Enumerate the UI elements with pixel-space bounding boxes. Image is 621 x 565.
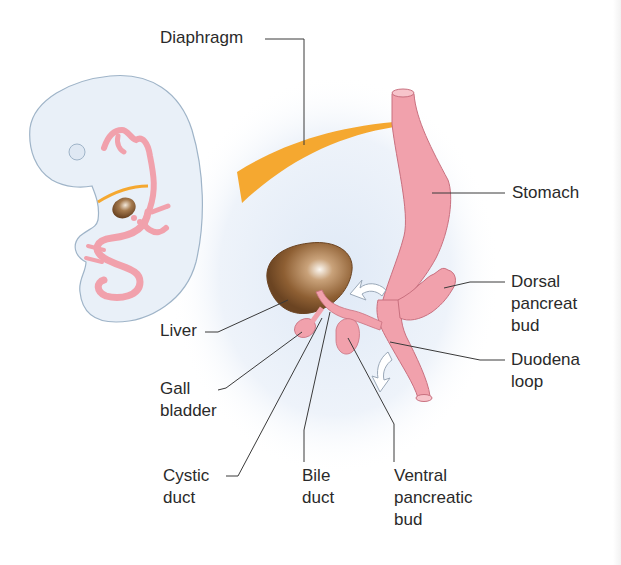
label-bile-duct: Bile duct xyxy=(302,465,334,509)
esophagus-opening xyxy=(392,89,414,97)
duodenum-opening xyxy=(416,395,432,402)
embryo-body xyxy=(30,75,203,322)
label-duodenal-loop: Duodena loop xyxy=(511,349,580,393)
label-diaphragm: Diaphragm xyxy=(160,27,243,49)
label-gall-bladder: Gall bladder xyxy=(160,378,217,422)
embryo-eye xyxy=(69,144,85,160)
label-ventral-pancreatic-bud: Ventral pancreatic bud xyxy=(394,465,472,531)
label-stomach: Stomach xyxy=(512,182,579,204)
label-dorsal-pancreatic-bud: Dorsal pancreat bud xyxy=(511,271,577,337)
page-edge-shadow xyxy=(613,0,621,565)
embryo-illustration xyxy=(30,75,203,322)
label-cystic-duct: Cystic duct xyxy=(163,465,209,509)
label-liver: Liver xyxy=(160,320,197,342)
